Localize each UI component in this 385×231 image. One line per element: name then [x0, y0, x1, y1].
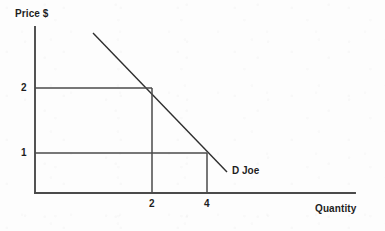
demand-curve-label: D Joe [232, 165, 259, 176]
y-axis-title: Price $ [15, 8, 49, 19]
plot-area [0, 0, 385, 231]
y-tick-label-1: 1 [21, 147, 27, 158]
y-tick-label-2: 2 [21, 82, 27, 93]
demand-curve-figure: Price $ Quantity 2 1 2 4 D Joe [0, 0, 385, 231]
x-tick-label-4: 4 [204, 198, 210, 209]
demand-curve-d-joe [93, 33, 227, 172]
x-axis-title: Quantity [315, 203, 356, 214]
x-tick-label-2: 2 [149, 198, 155, 209]
